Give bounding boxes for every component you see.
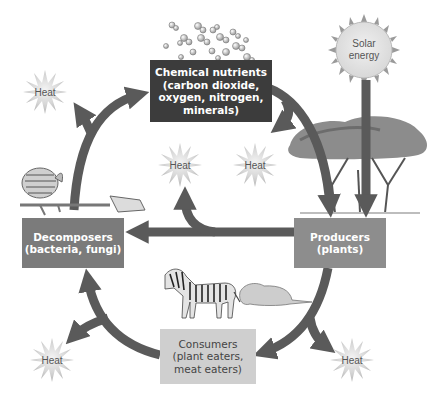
- lion-illustration: [240, 284, 312, 306]
- heat-label: Heat: [244, 160, 265, 171]
- molecules-illustration: [164, 22, 255, 63]
- node-label: Consumers (plant eaters, meat eaters): [173, 338, 244, 376]
- zebra-illustration: [165, 269, 240, 318]
- arrow-decomposers-heat-tl: [80, 112, 92, 135]
- sun-label: Solar energy: [349, 38, 380, 62]
- arrow-producers-heat-br: [310, 318, 326, 346]
- node-decomposers: Decomposers (bacteria, fungi): [22, 218, 124, 268]
- heat-label: Heat: [41, 355, 62, 366]
- node-label: Decomposers (bacteria, fungi): [25, 231, 122, 256]
- heat-label: Heat: [341, 355, 362, 366]
- node-chemical-nutrients: Chemical nutrients (carbon dioxide, oxyg…: [150, 60, 272, 122]
- node-label: Producers (plants): [310, 231, 370, 256]
- heat-label: Heat: [34, 87, 55, 98]
- node-consumers: Consumers (plant eaters, meat eaters): [160, 329, 256, 384]
- arrow-producers-to-heat: [185, 198, 215, 232]
- arrow-chem-to-heat: [280, 100, 289, 126]
- arrow-consumers-heat-bl: [74, 318, 108, 336]
- node-label: Chemical nutrients (carbon dioxide, oxyg…: [155, 66, 267, 116]
- node-producers: Producers (plants): [294, 218, 386, 268]
- heat-label: Heat: [169, 160, 190, 171]
